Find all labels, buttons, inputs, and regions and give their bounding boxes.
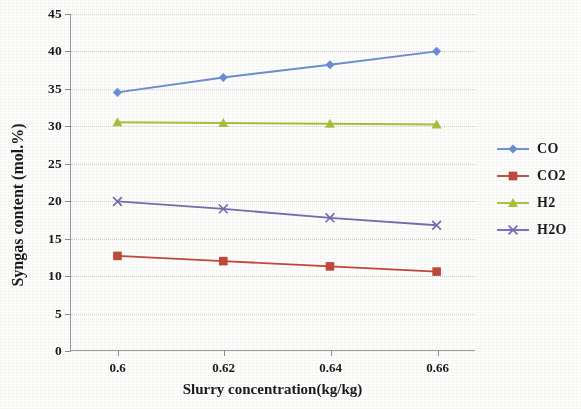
x-axis-title: Slurry concentration(kg/kg) — [70, 381, 475, 398]
legend-label: H2O — [537, 222, 567, 238]
data-point-diamond — [508, 144, 517, 153]
chart-legend: COCO2H2H2O — [496, 142, 567, 237]
y-axis-tick-label: 15 — [48, 231, 62, 247]
y-axis-tick-label: 20 — [48, 193, 62, 209]
x-axis-tick — [331, 350, 332, 356]
y-axis-tick-label: 25 — [48, 156, 62, 172]
legend-marker-diamond-icon — [496, 142, 530, 156]
data-point-square — [326, 262, 335, 271]
legend-item-co[interactable]: CO — [496, 142, 567, 156]
legend-label: CO — [537, 141, 559, 157]
series-line — [117, 122, 436, 124]
y-axis-tick — [65, 351, 71, 352]
x-axis-tick — [438, 350, 439, 356]
chart-canvas: Syngas content (mol.%) 05101520253035404… — [0, 0, 581, 409]
y-axis-tick-label: 10 — [48, 268, 62, 284]
series-co — [113, 47, 441, 97]
series-line — [117, 201, 436, 225]
plot-area: 051015202530354045 0.60.620.640.66 — [70, 14, 475, 351]
legend-label: H2 — [537, 195, 556, 211]
data-point-diamond — [325, 60, 334, 69]
y-axis-tick-label: 40 — [48, 43, 62, 59]
legend-marker-square-icon — [496, 169, 530, 183]
y-axis-tick-label: 0 — [55, 343, 62, 359]
x-axis-tick — [118, 350, 119, 356]
series-line — [117, 51, 436, 92]
y-axis-tick-label: 30 — [48, 118, 62, 134]
legend-marker-triangle-icon — [496, 196, 530, 210]
series-line — [117, 256, 436, 272]
x-axis-tick-label: 0.64 — [319, 360, 342, 376]
legend-item-co2[interactable]: CO2 — [496, 169, 567, 183]
x-axis-tick — [224, 350, 225, 356]
data-point-diamond — [432, 47, 441, 56]
series-plot — [71, 14, 475, 350]
y-axis-tick-label: 45 — [48, 6, 62, 22]
y-axis-title: Syngas content (mol.%) — [9, 55, 27, 355]
series-co2 — [113, 252, 441, 276]
data-point-diamond — [219, 73, 228, 82]
legend-label: CO2 — [537, 168, 566, 184]
data-point-square — [509, 172, 518, 181]
x-axis-tick-label: 0.62 — [212, 360, 235, 376]
x-axis-tick-label: 0.6 — [109, 360, 125, 376]
legend-item-h2[interactable]: H2 — [496, 196, 567, 210]
legend-marker-cross-icon — [496, 223, 530, 237]
data-point-square — [432, 267, 441, 276]
data-point-square — [219, 257, 228, 266]
y-axis-tick-label: 5 — [55, 306, 62, 322]
x-axis-tick-label: 0.66 — [426, 360, 449, 376]
data-point-diamond — [113, 88, 122, 97]
series-h2o — [113, 197, 441, 230]
legend-item-h2o[interactable]: H2O — [496, 223, 567, 237]
y-axis-tick-label: 35 — [48, 81, 62, 97]
data-point-square — [113, 252, 122, 261]
series-h2 — [112, 117, 441, 128]
